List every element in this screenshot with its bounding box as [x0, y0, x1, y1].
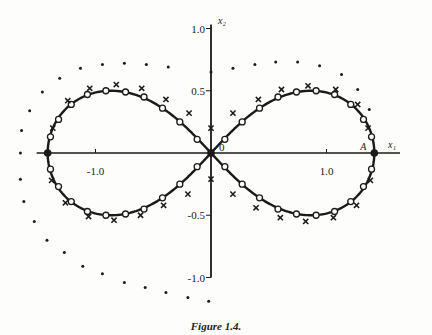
circle-marker	[103, 212, 109, 218]
dot-marker	[19, 178, 22, 181]
dot-marker	[145, 63, 148, 66]
circle-marker	[348, 101, 354, 107]
cross-marker	[114, 82, 119, 87]
circle-marker	[332, 209, 338, 215]
cross-marker	[331, 215, 336, 220]
dot-marker	[123, 281, 126, 284]
circle-marker	[68, 199, 74, 205]
cross-marker	[305, 83, 310, 88]
markers-group	[19, 61, 378, 303]
circle-marker	[313, 212, 319, 218]
filled-marker	[207, 149, 215, 157]
dot-marker	[207, 300, 210, 303]
circle-marker	[141, 206, 147, 212]
cross-marker	[111, 218, 116, 223]
circle-marker	[159, 105, 165, 111]
dot-marker	[22, 200, 25, 203]
circle-marker	[84, 91, 90, 97]
dot-marker	[356, 88, 359, 91]
cross-marker	[256, 97, 261, 102]
circle-marker	[177, 119, 183, 125]
circle-marker	[332, 91, 338, 97]
dot-marker	[123, 62, 126, 65]
circle-marker	[56, 116, 62, 122]
dot-marker	[210, 71, 213, 74]
circle-marker	[177, 181, 183, 187]
circle-marker	[123, 211, 129, 217]
circle-marker	[257, 105, 263, 111]
filled-marker	[371, 149, 379, 157]
circle-marker	[293, 211, 299, 217]
dot-marker	[41, 90, 44, 93]
cross-marker	[278, 215, 283, 220]
labels-group: x₂ x₁ 0 A Figure 1.4.	[190, 15, 396, 332]
circle-marker	[141, 94, 147, 100]
circle-marker	[123, 89, 129, 95]
cross-marker	[355, 102, 360, 107]
cross-marker	[138, 213, 143, 218]
dot-marker	[101, 63, 104, 66]
circle-marker	[369, 134, 375, 140]
x-tick-label: -1.0	[87, 165, 105, 177]
dot-marker	[28, 109, 31, 112]
y-tick-label: 0.5	[191, 85, 205, 97]
dot-marker	[58, 77, 61, 80]
circle-marker	[348, 199, 354, 205]
circle-marker	[275, 94, 281, 100]
cross-marker	[230, 111, 235, 116]
dot-marker	[368, 108, 371, 111]
figure-caption: Figure 1.4.	[190, 320, 241, 332]
dot-marker	[144, 286, 147, 289]
circle-marker	[159, 195, 165, 201]
cross-marker	[65, 98, 70, 103]
dot-marker	[101, 272, 104, 275]
cross-marker	[163, 97, 168, 102]
y-tick-label: -1.0	[188, 272, 206, 284]
y-axis-label: x₂	[217, 15, 226, 26]
circle-marker	[369, 166, 375, 172]
dot-marker	[81, 265, 84, 268]
dot-marker	[164, 291, 167, 294]
dot-marker	[318, 64, 321, 67]
circle-marker	[257, 195, 263, 201]
x-tick-label: 1.0	[320, 165, 334, 177]
dot-marker	[33, 220, 36, 223]
cross-marker	[279, 87, 284, 92]
dot-marker	[274, 61, 277, 64]
circle-marker	[293, 89, 299, 95]
dot-marker	[253, 63, 256, 66]
dot-marker	[63, 251, 66, 254]
chart: -1.01.01.00.5-0.5-1.0 x₂ x₁ 0 A Figure 1…	[0, 0, 432, 335]
cross-marker	[230, 191, 235, 196]
dot-marker	[186, 296, 189, 299]
y-tick-label: 1.0	[191, 23, 205, 35]
dot-marker	[45, 239, 48, 242]
x-axis-label: x₁	[387, 139, 396, 150]
circle-marker	[239, 181, 245, 187]
cross-marker	[354, 203, 359, 208]
circle-marker	[103, 88, 109, 94]
circle-marker	[313, 88, 319, 94]
cross-marker	[185, 191, 190, 196]
cross-marker	[186, 111, 191, 116]
cross-marker	[87, 86, 92, 91]
circle-marker	[360, 184, 366, 190]
point-a-label: A	[359, 141, 367, 152]
cross-marker	[253, 205, 258, 210]
circle-marker	[56, 184, 62, 190]
cross-marker	[161, 203, 166, 208]
filled-marker	[44, 149, 52, 157]
dot-marker	[19, 152, 22, 155]
circle-marker	[222, 164, 228, 170]
axes: -1.01.01.00.5-0.5-1.0	[37, 23, 400, 284]
origin-label: 0	[219, 141, 225, 153]
circle-marker	[275, 206, 281, 212]
cross-marker	[139, 86, 144, 91]
y-tick-label: -0.5	[188, 209, 206, 221]
circle-marker	[84, 209, 90, 215]
circle-marker	[47, 166, 53, 172]
cross-marker	[63, 200, 68, 205]
circle-marker	[360, 116, 366, 122]
dot-marker	[231, 67, 234, 70]
dot-marker	[296, 61, 299, 64]
